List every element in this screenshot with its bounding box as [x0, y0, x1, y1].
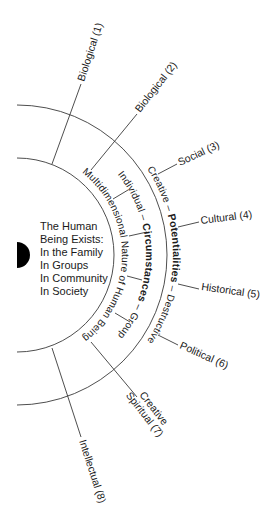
spoke-creative-spiritual-7: [91, 342, 137, 397]
label-political-6: Political (6): [178, 339, 230, 371]
label-creative-spiritual-7: Creative Spiritual (7): [124, 383, 175, 439]
spoke-social-3: [158, 164, 177, 174]
ring-outer-center: Potentialities: [166, 212, 183, 284]
label-cultural-4: Cultural (4): [200, 208, 253, 226]
spoke-biological-2: [91, 114, 137, 170]
label-historical-5: Historical (5): [201, 280, 261, 300]
label-biological-1: Biological (1): [74, 21, 104, 82]
center-line-1: The Human: [40, 220, 97, 232]
ring-middle-right: – Group: [116, 300, 146, 341]
spoke-political-6: [158, 335, 178, 345]
human-being-diagram: Multidimensional Nature of Human Being I…: [0, 0, 275, 512]
label-social-3: Social (3): [176, 138, 221, 168]
spoke-biological-1: [52, 84, 81, 164]
ring-outer-left: Creative –: [145, 164, 176, 215]
center-line-4: In Groups: [40, 259, 89, 271]
center-line-3: In the Family: [40, 246, 103, 258]
spoke-historical-5: [178, 284, 199, 289]
center-text-block: The Human Being Exists: In the Family In…: [40, 220, 108, 297]
spoke-cultural-4: [178, 222, 199, 227]
half-disc-marker: [17, 242, 30, 268]
spoke-nature: [127, 276, 142, 280]
label-biological-2: Biological (2): [132, 59, 179, 114]
center-line-5: In Community: [40, 272, 108, 284]
center-line-6: In Society: [40, 285, 89, 297]
label-intellectual-8: Intellectual (8): [77, 438, 109, 504]
center-line-2: Being Exists:: [40, 233, 104, 245]
